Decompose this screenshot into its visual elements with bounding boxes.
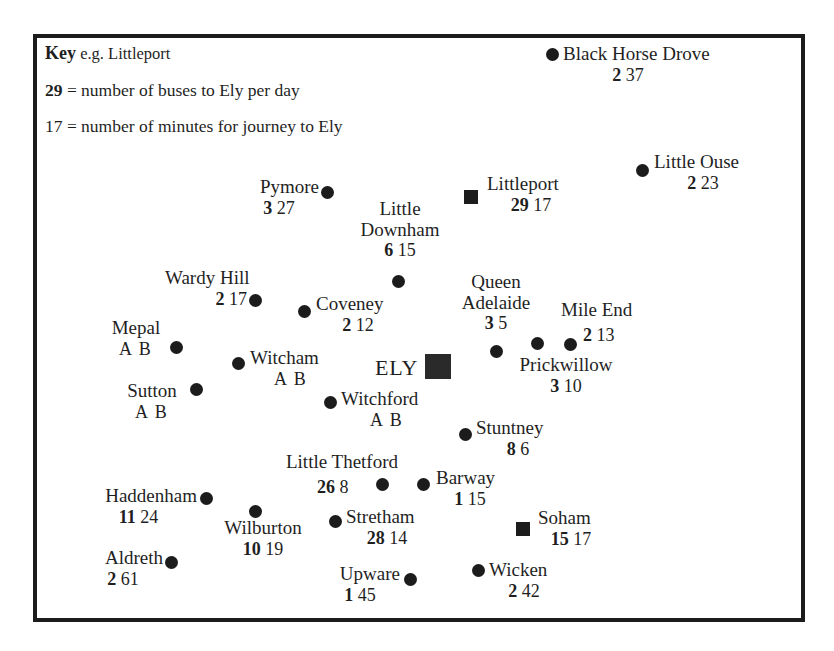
stat-buses-sutton: A (135, 402, 150, 422)
place-witchford: Witchford A B (341, 389, 433, 430)
stat-buses-little-downham: 6 (384, 240, 393, 260)
stat-mins-mepal: B (139, 339, 153, 359)
place-name-queen-adelaide-line2: Adelaide (451, 293, 541, 314)
key-example-place: Littleport (108, 44, 170, 63)
stat-buses-wilburton: 10 (243, 539, 261, 559)
place-name-wardy-hill: Wardy Hill (165, 268, 247, 289)
place-wicken: Wicken 2 42 (489, 560, 559, 601)
marker-soham[interactable] (516, 522, 530, 536)
stat-buses-wicken: 2 (508, 581, 517, 601)
place-name-stuntney: Stuntney (476, 418, 560, 439)
marker-wardy-hill[interactable] (249, 294, 262, 307)
marker-queen-adelaide[interactable] (490, 345, 503, 358)
stat-buses-pymore: 3 (263, 198, 272, 218)
marker-witcham[interactable] (232, 357, 245, 370)
marker-witchford[interactable] (324, 396, 337, 409)
stat-buses-mepal: A (119, 339, 134, 359)
place-stats-little-thetford: 26 8 (317, 477, 349, 498)
stat-mins-stuntney: 6 (520, 439, 529, 459)
place-little-thetford: Little Thetford (276, 452, 408, 473)
stat-mins-wilburton: 19 (265, 539, 283, 559)
marker-aldreth[interactable] (165, 556, 178, 569)
stat-buses-black-horse-drove: 2 (612, 65, 621, 85)
stat-buses-little-thetford: 26 (317, 477, 335, 497)
marker-wicken[interactable] (472, 564, 485, 577)
place-stats-prickwillow: 3 10 (510, 376, 622, 397)
place-witcham: Witcham A B (250, 348, 332, 389)
marker-mile-end[interactable] (564, 338, 577, 351)
place-name-little-ouse: Little Ouse (654, 152, 752, 173)
key-minutes-line: 17 = number of minutes for journey to El… (45, 118, 465, 136)
stat-mins-barway: 15 (468, 489, 486, 509)
place-name-mepal: Mepal (104, 318, 168, 339)
marker-little-downham[interactable] (392, 275, 405, 288)
stat-mins-soham: 17 (573, 529, 591, 549)
place-stretham: Stretham 28 14 (346, 507, 428, 548)
key-title: Key (45, 43, 76, 63)
stat-buses-stretham: 28 (367, 528, 385, 548)
stat-buses-upware: 1 (344, 585, 353, 605)
marker-ely[interactable] (425, 354, 451, 379)
marker-coveney[interactable] (298, 305, 311, 318)
place-barway: Barway 1 15 (436, 468, 504, 509)
place-stats-aldreth: 2 61 (83, 569, 163, 590)
key-legend: Key e.g. Littleport 29 = number of buses… (45, 44, 465, 136)
place-stuntney: Stuntney 8 6 (476, 418, 560, 459)
marker-mepal[interactable] (170, 341, 183, 354)
key-title-line: Key e.g. Littleport (45, 44, 465, 63)
stat-buses-mile-end: 2 (583, 325, 592, 345)
stat-mins-mile-end: 13 (597, 325, 615, 345)
stat-mins-little-thetford: 8 (340, 477, 349, 497)
place-stats-mile-end: 2 13 (583, 325, 615, 346)
marker-upware[interactable] (404, 573, 417, 586)
place-queen-adelaide: Queen Adelaide 3 5 (451, 272, 541, 334)
place-stats-witchford: A B (341, 410, 433, 431)
place-stats-black-horse-drove: 2 37 (563, 65, 693, 86)
place-mepal: Mepal A B (104, 318, 168, 359)
stat-mins-upware: 45 (358, 585, 376, 605)
place-littleport: Littleport 29 17 (487, 174, 575, 215)
place-stats-little-downham: 6 15 (348, 240, 452, 261)
place-wilburton: Wilburton 10 19 (206, 518, 320, 559)
place-stats-barway: 1 15 (436, 489, 504, 510)
place-name-wicken: Wicken (489, 560, 559, 581)
place-stats-haddenham: 11 24 (80, 507, 197, 528)
place-mile-end: Mile End (561, 300, 632, 321)
marker-stuntney[interactable] (459, 428, 472, 441)
key-buses-text: = number of buses to Ely per day (67, 80, 300, 100)
place-name-haddenham: Haddenham (80, 486, 197, 507)
place-name-wilburton: Wilburton (206, 518, 320, 539)
stat-mins-little-downham: 15 (398, 240, 416, 260)
marker-pymore[interactable] (321, 186, 334, 199)
place-soham: Soham 15 17 (538, 508, 604, 549)
marker-black-horse-drove[interactable] (546, 48, 559, 61)
place-name-prickwillow: Prickwillow (510, 355, 622, 376)
place-little-ouse: Little Ouse 2 23 (654, 152, 752, 193)
stat-buses-littleport: 29 (511, 195, 529, 215)
marker-sutton[interactable] (190, 383, 203, 396)
marker-little-thetford[interactable] (376, 478, 389, 491)
stat-mins-coveney: 12 (356, 315, 374, 335)
marker-barway[interactable] (417, 478, 430, 491)
marker-stretham[interactable] (329, 515, 342, 528)
marker-little-ouse[interactable] (636, 164, 649, 177)
stat-buses-witchford: A (370, 410, 385, 430)
place-stats-upware: 1 45 (320, 585, 400, 606)
place-name-stretham: Stretham (346, 507, 428, 528)
place-stats-soham: 15 17 (538, 529, 604, 550)
stat-mins-queen-adelaide: 5 (498, 313, 507, 333)
place-name-mile-end: Mile End (561, 300, 632, 321)
place-name-little-downham-line2: Downham (348, 220, 452, 241)
marker-prickwillow[interactable] (531, 337, 544, 350)
stat-mins-haddenham: 24 (140, 507, 158, 527)
place-haddenham: Haddenham 11 24 (80, 486, 197, 527)
marker-littleport[interactable] (464, 190, 478, 204)
key-buses-number: 29 (45, 80, 63, 100)
place-stats-queen-adelaide: 3 5 (451, 313, 541, 334)
stat-buses-stuntney: 8 (507, 439, 516, 459)
place-name-littleport: Littleport (487, 174, 575, 195)
place-name-witcham: Witcham (250, 348, 332, 369)
marker-haddenham[interactable] (200, 492, 213, 505)
stat-buses-barway: 1 (454, 489, 463, 509)
stat-buses-coveney: 2 (342, 315, 351, 335)
